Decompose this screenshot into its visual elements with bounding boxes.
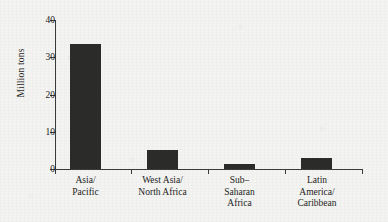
x-category-label-line: Latin [282,175,352,187]
x-category-label-sub-saharan-africa: Sub– Saharan Africa [207,175,272,210]
x-tick-mark-2 [208,169,209,174]
x-category-label-line: Saharan [207,187,272,199]
x-category-label-line: Sub– [207,175,272,187]
bar-asia-pacific [70,44,101,169]
x-category-label-line: Caribbean [282,198,352,210]
bar-chart-figure: Million tons 0 10 20 30 40 Asia/ Pacific… [0,0,388,222]
x-category-label-line: West Asia/ [125,175,200,187]
x-category-label-line: Pacific [53,187,118,199]
y-tick-label-30: 30 [29,53,55,63]
y-tick-label-40: 40 [29,16,55,26]
y-axis-title: Million tons [16,33,26,113]
y-tick-label-10: 10 [29,128,55,138]
bar-latin-america-caribbean [301,158,332,170]
bar-sub-saharan-africa [224,164,255,169]
x-category-label-line: North Africa [125,187,200,199]
y-tick-label-20: 20 [29,91,55,101]
x-category-label-west-asia-north-africa: West Asia/ North Africa [125,175,200,198]
x-tick-mark-3 [285,169,286,174]
x-category-label-line: America/ [282,187,352,199]
x-tick-mark-1 [131,169,132,174]
y-tick-label-0: 0 [29,165,55,175]
bar-west-asia-north-africa [147,150,178,169]
x-category-label-line: Asia/ [53,175,118,187]
x-category-label-line: Africa [207,198,272,210]
x-tick-mark-4 [362,169,363,174]
y-axis-line [55,20,56,170]
x-category-label-asia-pacific: Asia/ Pacific [53,175,118,198]
x-tick-mark-0 [55,169,56,174]
x-category-label-latin-america-caribbean: Latin America/ Caribbean [282,175,352,210]
